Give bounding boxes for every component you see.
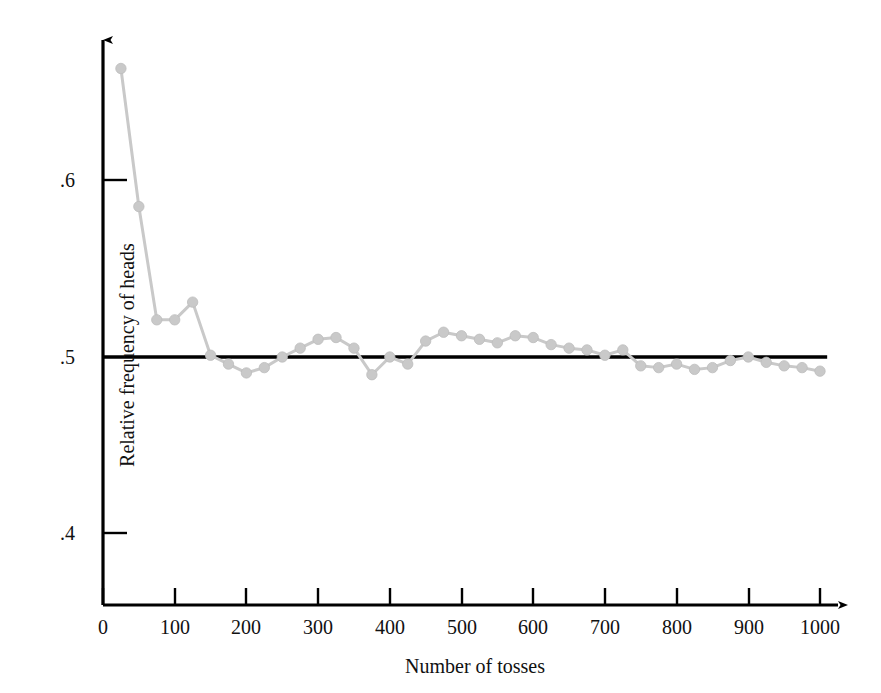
x-tick-label-900: 900 (734, 617, 764, 637)
data-point (797, 362, 807, 372)
axis-lines (103, 40, 838, 605)
data-point (205, 350, 215, 360)
data-point (277, 352, 287, 362)
data-point (349, 343, 359, 353)
data-point (187, 297, 197, 307)
data-point (743, 352, 753, 362)
y-tick-label-0.6: .6 (60, 170, 75, 190)
x-tick-label-100: 100 (160, 617, 190, 637)
data-point (295, 343, 305, 353)
data-point (510, 331, 520, 341)
data-point (456, 331, 466, 341)
data-point (223, 359, 233, 369)
data-point (618, 345, 628, 355)
y-tick-label-0.5: .5 (60, 347, 75, 367)
data-point (241, 368, 251, 378)
data-point (367, 370, 377, 380)
x-axis-title: Number of tosses (405, 655, 545, 678)
y-axis-title: Relative frequency of heads (116, 243, 139, 467)
axis-ticks (103, 180, 820, 605)
data-point (474, 334, 484, 344)
x-tick-label-300: 300 (303, 617, 333, 637)
data-point (636, 361, 646, 371)
data-point (152, 315, 162, 325)
series-markers-relative-frequency (116, 63, 825, 380)
x-tick-label-200: 200 (231, 617, 261, 637)
data-point (671, 359, 681, 369)
data-point (600, 350, 610, 360)
x-tick-label-500: 500 (447, 617, 477, 637)
data-point (564, 343, 574, 353)
x-tick-label-400: 400 (375, 617, 405, 637)
data-point (134, 201, 144, 211)
x-tick-label-700: 700 (590, 617, 620, 637)
data-point (116, 63, 126, 73)
data-point (528, 332, 538, 342)
data-point (815, 366, 825, 376)
data-point (492, 338, 502, 348)
data-point (653, 362, 663, 372)
y-tick-label-0.4: .4 (60, 523, 75, 543)
data-point (385, 352, 395, 362)
x-tick-label-0: 0 (98, 617, 108, 637)
data-point (582, 345, 592, 355)
data-point (403, 359, 413, 369)
data-point (689, 364, 699, 374)
data-point (761, 357, 771, 367)
data-point (331, 332, 341, 342)
data-point (259, 362, 269, 372)
data-point (725, 355, 735, 365)
data-point (546, 339, 556, 349)
data-point (438, 327, 448, 337)
chart-figure: .6 .5 .4 0 100 200 300 400 500 600 700 8… (0, 0, 881, 693)
x-tick-label-800: 800 (662, 617, 692, 637)
x-tick-label-600: 600 (518, 617, 548, 637)
data-point (170, 315, 180, 325)
data-point (707, 362, 717, 372)
data-point (779, 361, 789, 371)
x-tick-label-1000: 1000 (800, 617, 840, 637)
series-line-relative-frequency (121, 68, 820, 374)
data-point (313, 334, 323, 344)
data-point (420, 336, 430, 346)
